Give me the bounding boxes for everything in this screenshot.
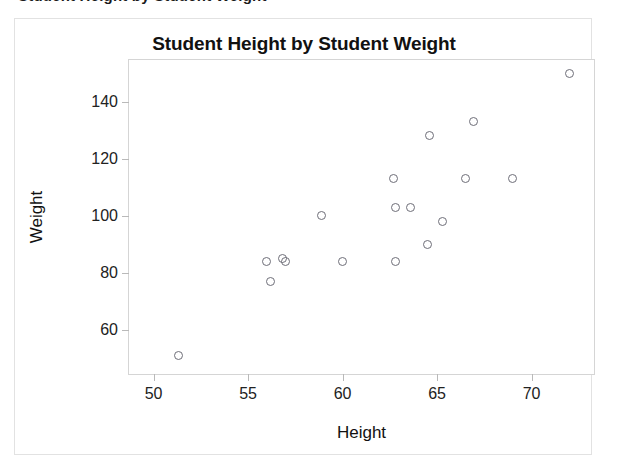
scatter-point (262, 257, 271, 266)
scatter-point (317, 211, 326, 220)
scatter-point (565, 69, 574, 78)
x-axis-tick-label: 70 (523, 385, 541, 403)
chart-title: Student Height by Student Weight (15, 33, 593, 55)
x-axis-tick (437, 374, 438, 381)
x-axis-tick-label: 55 (239, 385, 257, 403)
scatter-point (338, 257, 347, 266)
x-axis-tick-label: 50 (145, 385, 163, 403)
scatter-point (174, 351, 183, 360)
x-axis-tick-label: 65 (428, 385, 446, 403)
scatter-point (281, 257, 290, 266)
scatter-point (438, 217, 447, 226)
y-axis-tick-label: 140 (91, 93, 118, 111)
x-axis-tick (154, 374, 155, 381)
y-axis-tick (122, 216, 129, 217)
scatter-point (423, 240, 432, 249)
y-axis-tick (122, 159, 129, 160)
x-axis-tick-label: 60 (334, 385, 352, 403)
cropped-caption-text: Student Height by Student Weight (18, 0, 267, 4)
y-axis-tick (122, 330, 129, 331)
chart-figure: Student Height by Student Weight 6080100… (14, 18, 592, 455)
plot-frame: 60801001201405055606570 (128, 59, 595, 375)
y-axis-tick (122, 102, 129, 103)
scatter-point (266, 277, 275, 286)
x-axis-tick (343, 374, 344, 381)
scatter-point (508, 174, 517, 183)
y-axis-tick-label: 100 (91, 207, 118, 225)
y-axis-tick-label: 120 (91, 150, 118, 168)
y-axis-tick (122, 273, 129, 274)
y-axis-tick-label: 80 (100, 264, 118, 282)
plot-area (129, 60, 594, 374)
x-axis-title: Height (128, 423, 595, 443)
scatter-point (469, 117, 478, 126)
scatter-point (425, 131, 434, 140)
scatter-point (391, 203, 400, 212)
x-axis-tick (532, 374, 533, 381)
y-axis-title: Weight (27, 191, 47, 244)
scatter-point (461, 174, 470, 183)
scatter-point (406, 203, 415, 212)
x-axis-tick (248, 374, 249, 381)
scatter-point (389, 174, 398, 183)
scatter-point (391, 257, 400, 266)
y-axis-tick-label: 60 (100, 321, 118, 339)
cropped-caption-line: Student Height by Student Weight (0, 0, 620, 15)
